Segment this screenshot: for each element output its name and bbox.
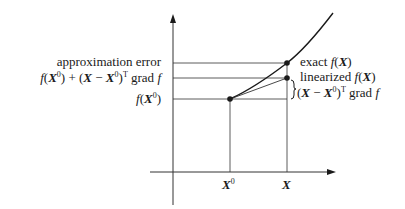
point-x0 [227, 96, 233, 102]
point-linearized [284, 75, 290, 81]
x0-axis-label: X0 [222, 178, 235, 192]
linearized-label: linearized f(X) [300, 70, 375, 84]
point-exact [284, 60, 290, 66]
linearized-value-label: f(X0) + (X − X0)T grad f [40, 71, 161, 85]
exact-value-label: exact f(X) [300, 55, 352, 69]
increment-label: (X − X0)T grad f [297, 86, 379, 100]
increment-brace-icon [291, 80, 296, 99]
x-axis-label: X [282, 178, 291, 192]
base-value-label: f(X0) [136, 92, 161, 106]
x-axis-arrow-icon [327, 169, 336, 175]
diagram-canvas [0, 0, 405, 209]
tangent-line [230, 78, 287, 99]
y-axis-arrow-icon [170, 14, 176, 23]
approximation-error-label: approximation error [57, 55, 161, 69]
